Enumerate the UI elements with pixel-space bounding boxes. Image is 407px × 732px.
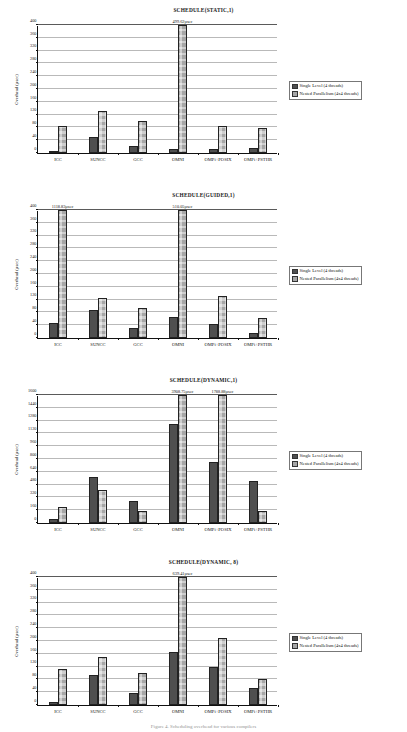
legend-item: Nested Parallelism (4x4 threads) — [292, 276, 358, 282]
bar-group — [238, 25, 278, 153]
x-axis-tick-mark — [158, 523, 159, 525]
legend-item: Single Level (4 threads) — [292, 84, 358, 90]
x-axis-tick-label: OMPi+POSIX — [204, 343, 231, 348]
y-axis-tick-label: 80 — [32, 306, 36, 310]
y-axis-tick-label: 1280 — [28, 414, 37, 418]
x-axis-tick-label: SUNCC — [90, 158, 105, 163]
bar-group — [78, 395, 118, 523]
y-axis-tick-label: 0 — [34, 517, 36, 521]
bar — [138, 511, 147, 523]
x-axis-tick-label: SUNCC — [90, 343, 105, 348]
legend-label: Nested Parallelism (4x4 threads) — [300, 644, 359, 649]
x-axis-tick-mark — [78, 338, 79, 340]
bar — [138, 673, 147, 705]
chart-title: SCHEDULE(STATIC,1) — [0, 8, 407, 13]
y-axis-tick-label: 640 — [30, 465, 36, 469]
bar — [258, 511, 267, 523]
y-axis-tick-label: 320 — [30, 596, 36, 600]
bar — [169, 652, 178, 705]
x-axis-tick-mark — [158, 338, 159, 340]
x-axis-tick-label: OMNI — [172, 528, 184, 533]
legend-item: Single Level (4 threads) — [292, 636, 358, 642]
legend-swatch-icon — [292, 276, 298, 282]
bar — [258, 318, 267, 338]
y-axis-tick-label: 960 — [30, 440, 36, 444]
bar — [178, 577, 187, 705]
x-axis-tick-label: ICC — [54, 343, 62, 348]
x-axis-tick-label: SUNCC — [90, 528, 105, 533]
y-axis-tick-label: 160 — [30, 280, 36, 284]
x-axis-tick-mark — [278, 153, 279, 155]
bar — [178, 395, 187, 523]
legend-swatch-icon — [292, 84, 298, 90]
x-axis-tick-label: ICC — [54, 158, 62, 163]
x-axis-tick-label: OMNI — [172, 158, 184, 163]
bar — [209, 149, 218, 153]
bar — [249, 148, 258, 153]
y-axis-tick-label: 1600 — [28, 389, 37, 393]
bar-group — [118, 577, 158, 705]
y-axis-tick-label: 320 — [30, 491, 36, 495]
bar-group — [118, 25, 158, 153]
y-axis-label: Overhead (µsec) — [14, 67, 19, 113]
y-axis-tick-label: 200 — [30, 635, 36, 639]
value-annotation: 499.62µsec — [173, 20, 193, 24]
bar-group — [78, 210, 118, 338]
y-axis-tick-label: 240 — [30, 70, 36, 74]
bar — [258, 128, 267, 153]
bar — [89, 675, 98, 705]
bar — [249, 688, 258, 705]
x-axis-tick-mark — [158, 153, 159, 155]
y-axis-tick-label: 320 — [30, 229, 36, 233]
bar-group — [38, 25, 78, 153]
y-axis-tick-label: 360 — [30, 31, 36, 35]
bar-group — [118, 395, 158, 523]
y-axis-tick-label: 120 — [30, 108, 36, 112]
x-axis-tick-mark — [238, 153, 239, 155]
plot-area: 04080120160200240280320360400ICCSUNCCGCC… — [37, 26, 277, 154]
bar-group — [198, 25, 238, 153]
x-axis-tick-mark — [198, 153, 199, 155]
x-axis-tick-mark — [278, 338, 279, 340]
bar — [218, 395, 227, 523]
y-axis-tick-label: 160 — [30, 95, 36, 99]
x-axis-tick-label: SUNCC — [90, 710, 105, 715]
value-annotation: 1788.88µsec — [212, 390, 234, 394]
y-axis-tick-label: 360 — [30, 216, 36, 220]
y-axis-label: Overhead (µsec) — [14, 252, 19, 298]
x-axis-tick-label: ICC — [54, 528, 62, 533]
y-axis-tick-label: 400 — [30, 19, 36, 23]
y-axis-label: Overhead (µsec) — [14, 619, 19, 665]
chart-legend: Single Level (4 threads)Nested Paralleli… — [289, 451, 362, 470]
legend-label: Single Level (4 threads) — [300, 269, 343, 274]
chart-title: SCHEDULE(DYNAMIC,1) — [0, 378, 407, 383]
y-axis-tick-label: 360 — [30, 583, 36, 587]
bar — [49, 323, 58, 338]
x-axis-tick-label: GCC — [133, 343, 142, 348]
bar — [209, 462, 218, 523]
x-axis-tick-label: OMPi+POSIX — [204, 710, 231, 715]
legend-swatch-icon — [292, 269, 298, 275]
bar-group — [78, 577, 118, 705]
bar-group — [198, 395, 238, 523]
bar — [89, 477, 98, 523]
bar-group — [78, 25, 118, 153]
y-axis-tick-label: 40 — [32, 319, 36, 323]
y-axis-tick-label: 400 — [30, 571, 36, 575]
bar — [129, 501, 138, 523]
x-axis-tick-label: OMNI — [172, 710, 184, 715]
legend-item: Nested Parallelism (4x4 threads) — [292, 643, 358, 649]
x-axis-tick-mark — [118, 523, 119, 525]
legend-swatch-icon — [292, 636, 298, 642]
y-axis-tick-label: 80 — [32, 673, 36, 677]
bar — [98, 298, 107, 338]
bar-group — [38, 210, 78, 338]
legend-label: Single Level (4 threads) — [300, 636, 343, 641]
x-axis-tick-label: OMNI — [172, 343, 184, 348]
x-axis-tick-label: OMPi+PSTHR — [244, 710, 272, 715]
bar — [178, 210, 187, 338]
legend-label: Single Level (4 threads) — [300, 84, 343, 89]
bar-group — [158, 210, 198, 338]
x-axis-tick-mark — [78, 705, 79, 707]
chart-3: SCHEDULE(DYNAMIC,1)016032048064080096011… — [0, 378, 407, 563]
